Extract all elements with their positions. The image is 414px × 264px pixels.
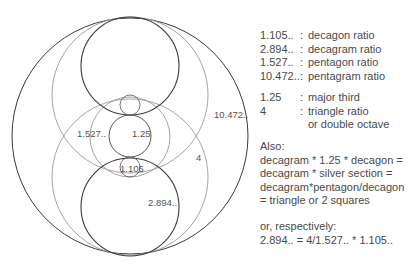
legend-separator: : [300, 70, 303, 83]
legend-value: 2.894.. [260, 43, 294, 56]
also-line: decagram*pentagon/decagon [260, 181, 404, 194]
legend-label: triangle ratio [308, 105, 369, 118]
also-line: = triangle or 2 squares [260, 194, 370, 207]
label-decagram-ratio: 2.894.. [148, 197, 177, 208]
legend-separator: : [300, 29, 303, 42]
legend-label: decagon ratio [308, 29, 375, 42]
respectively-formula: 2.894.. = 4/1.527.. * 1.105.. [260, 234, 393, 247]
legend-separator: : [300, 56, 303, 69]
label-triangle-ratio: 4 [196, 152, 201, 163]
legend-label: decagram ratio [308, 43, 381, 56]
legend-label: or double octave [308, 118, 389, 131]
label-decagon-ratio: 1.105 [120, 163, 144, 174]
upper-dark-circle [81, 17, 179, 115]
label-pentagon-ratio: 1.527.. [77, 128, 106, 139]
legend-separator: : [300, 91, 303, 104]
legend-value: 1.527.. [260, 56, 294, 69]
upper-small-circle [120, 95, 140, 115]
also-heading: Also: [260, 140, 284, 153]
legend-label: major third [308, 91, 360, 104]
also-line: decagram * 1.25 * decagon = [260, 154, 403, 167]
legend-value: 4 [260, 105, 266, 118]
label-pentagram-ratio: 10.472.. [214, 109, 248, 120]
legend-label: pentagon ratio [308, 56, 378, 69]
legend-value: 1.105.. [260, 29, 294, 42]
legend-label: pentagram ratio [308, 70, 385, 83]
legend-separator: : [300, 43, 303, 56]
also-line: decagram * silver section = [260, 167, 392, 180]
outer-circle [12, 18, 248, 254]
legend-value: 10.472.. [260, 70, 300, 83]
ratio-circles-diagram: 1.527.. 1.25 1.105 4 2.894.. 10.472.. [0, 0, 250, 264]
legend-value: 1.25 [260, 91, 281, 104]
respectively-heading: or, respectively: [260, 220, 336, 233]
legend-separator: : [300, 105, 303, 118]
label-major-third: 1.25 [132, 128, 151, 139]
